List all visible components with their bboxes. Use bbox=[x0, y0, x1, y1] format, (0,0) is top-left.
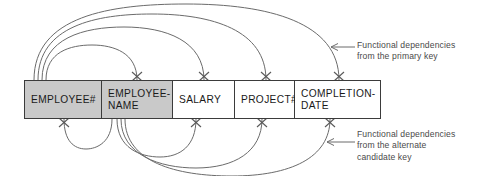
table-cell-project-number[interactable]: PROJECT# bbox=[235, 81, 295, 118]
table-cell-employee-number[interactable]: EMPLOYEE# bbox=[25, 81, 102, 118]
attribute-table: EMPLOYEE# EMPLOYEE- NAME SALARY PROJECT#… bbox=[24, 80, 381, 119]
callout-arrow-primary-icon bbox=[331, 44, 355, 51]
fd-arc-pk-to-employee-name bbox=[46, 45, 137, 80]
fd-arc-pk-to-completion-date bbox=[34, 4, 339, 80]
fd-arc-pk-to-salary bbox=[42, 27, 204, 80]
table-cell-employee-name[interactable]: EMPLOYEE- NAME bbox=[102, 81, 173, 118]
callout-arrow-alternate-icon bbox=[327, 139, 355, 146]
annotation-primary-key-dependencies: Functional dependencies from the primary… bbox=[357, 40, 489, 63]
fd-arc-ak-to-employee-number bbox=[64, 119, 112, 149]
fd-arc-ak-to-completion-date bbox=[125, 119, 330, 176]
diagram-canvas: EMPLOYEE# EMPLOYEE- NAME SALARY PROJECT#… bbox=[0, 0, 489, 176]
annotation-alternate-key-dependencies: Functional dependencies from the alterna… bbox=[357, 129, 489, 163]
table-cell-completion-date[interactable]: COMPLETION- DATE bbox=[295, 81, 380, 118]
table-cell-salary[interactable]: SALARY bbox=[173, 81, 235, 118]
